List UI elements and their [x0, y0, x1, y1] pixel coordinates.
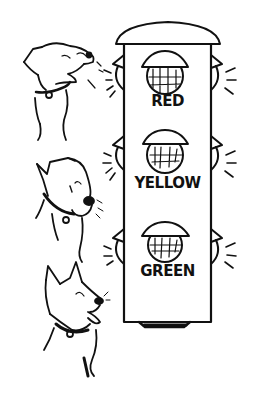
dog-happy — [44, 262, 110, 376]
dog-snarling — [24, 43, 103, 140]
traffic-light-hood — [116, 22, 220, 44]
red-label: RED — [124, 92, 211, 110]
green-label: GREEN — [124, 262, 211, 280]
dog-worried — [36, 158, 103, 262]
yellow-label: YELLOW — [124, 174, 211, 192]
illustration-canvas — [0, 0, 258, 393]
